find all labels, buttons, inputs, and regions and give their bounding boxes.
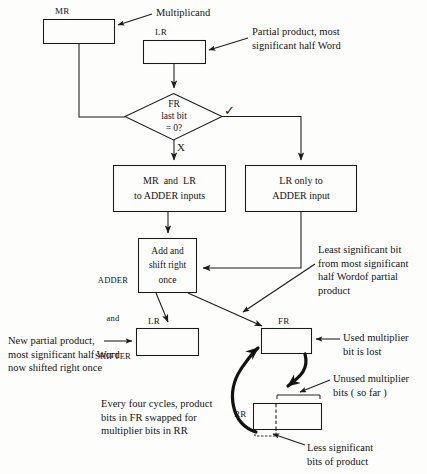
annotation-new-partial-product: New partial product, most significant ha…: [8, 334, 120, 375]
process-text-add-shift-line2: shift right: [149, 258, 186, 272]
annotation-less-significant-bits-line1: Less significant: [307, 441, 373, 455]
leader-partial-product: [209, 38, 248, 50]
decision-line-1: FR: [148, 98, 200, 111]
flowchart-vector-layer: [0, 0, 427, 474]
register-box-lr-bottom: [137, 329, 199, 356]
process-text-add-shift-line3: once: [159, 273, 177, 287]
decision-false-xmark: X: [177, 141, 185, 153]
annotation-used-multiplier-bit: Used multiplier bit is lost: [343, 331, 409, 358]
annotation-unused-multiplier-bits-line2: bits ( so far ): [333, 386, 409, 400]
annotation-swap-cycle-line3: multiplier bits in RR: [101, 424, 212, 438]
register-tag-lr-bottom: LR: [148, 316, 160, 326]
annotation-least-significant-bit-line3: half Wordof partial: [318, 270, 408, 284]
annotation-new-partial-product-line3: now shifted right once: [8, 361, 120, 375]
register-box-mr: [44, 20, 115, 44]
flowchart-canvas: MR LR LR FR RR FR last bit = 0? ✓ X MR a…: [0, 0, 427, 474]
process-text-mr-lr-adder-line1: MR and LR: [143, 174, 196, 188]
register-tag-rr: RR: [234, 409, 247, 419]
register-tag-mr: MR: [55, 6, 70, 16]
annotation-used-multiplier-bit-line2: bit is lost: [343, 345, 409, 359]
annotation-least-significant-bit-line2: from most significant: [318, 257, 408, 271]
brace-unused-bits: [277, 395, 320, 399]
annotation-swap-cycle-line1: Every four cycles, product: [101, 397, 212, 411]
annotation-partial-product-line1: Partial product, most: [252, 25, 341, 39]
process-text-add-shift: Add and shift right once: [138, 238, 197, 293]
connector-lr-only-box-to-adder: [203, 212, 301, 269]
annotation-new-partial-product-line2: most significant half Word: [8, 348, 120, 362]
brace-less-significant-bits: [255, 430, 276, 436]
process-text-mr-lr-adder: MR and LR to ADDER inputs: [113, 165, 226, 212]
annotation-multiplicand-line1: Multiplicand: [156, 6, 210, 20]
connector-adder-to-fr: [188, 293, 262, 326]
decision-line-3: = 0?: [148, 122, 200, 135]
process-text-mr-lr-adder-line2: to ADDER inputs: [134, 189, 205, 203]
connector-mr-to-decision: [79, 44, 125, 118]
annotation-partial-product-line2: significant half Word: [252, 39, 341, 53]
annotation-less-significant-bits: Less significant bits of product: [307, 441, 373, 468]
register-box-fr: [262, 329, 312, 354]
process-text-lr-only-adder-line1: LR only to: [279, 174, 322, 188]
register-tag-fr: FR: [278, 316, 290, 326]
annotation-least-significant-bit-line1: Least significant bit: [318, 243, 408, 257]
process-text-lr-only-adder: LR only to ADDER input: [245, 165, 357, 212]
annotation-used-multiplier-bit-line1: Used multiplier: [343, 331, 409, 345]
annotation-least-significant-bit: Least significant bit from most signific…: [318, 243, 408, 298]
decision-true-checkmark: ✓: [224, 103, 235, 119]
annotation-unused-multiplier-bits: Unused multiplier bits ( so far ): [333, 372, 409, 399]
annotation-multiplicand: Multiplicand: [156, 6, 210, 20]
unit-label-line2: and: [88, 312, 138, 325]
process-text-add-shift-line1: Add and: [151, 244, 183, 258]
unit-label-line1: ADDER: [88, 274, 138, 287]
annotation-less-significant-bits-line2: bits of product: [307, 455, 373, 469]
register-tag-lr-top: LR: [155, 27, 167, 37]
annotation-partial-product: Partial product, most significant half W…: [252, 25, 341, 52]
register-box-lr-top: [144, 41, 206, 64]
annotation-swap-cycle: Every four cycles, product bits in FR sw…: [101, 397, 212, 438]
leader-unused-multiplier-bits: [300, 380, 330, 392]
swap-arc-fr-to-rr: [288, 354, 306, 386]
decision-line-2: last bit: [148, 110, 200, 123]
annotation-new-partial-product-line1: New partial product,: [8, 334, 120, 348]
leader-less-significant-bits: [273, 434, 305, 445]
leader-least-significant-bit: [243, 264, 315, 312]
swap-arc-rr-to-fr: [233, 348, 258, 432]
register-box-rr: [254, 404, 322, 430]
leader-multiplicand: [118, 14, 152, 25]
annotation-least-significant-bit-line4: product: [318, 284, 408, 298]
annotation-unused-multiplier-bits-line1: Unused multiplier: [333, 372, 409, 386]
connector-decision-true-to-lr-only-box: [222, 117, 301, 161]
annotation-swap-cycle-line2: bits in FR swapped for: [101, 411, 212, 425]
process-text-lr-only-adder-line2: ADDER input: [272, 189, 330, 203]
